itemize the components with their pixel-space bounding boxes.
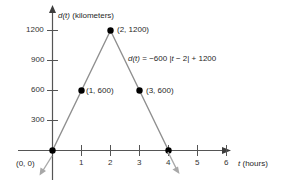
- y-axis-title-arg: (t): [62, 11, 70, 20]
- equation-rest: − 2| + 1200: [174, 54, 217, 63]
- x-tick-label-3: 3: [137, 159, 141, 167]
- x-tick-label-4: 4: [166, 159, 170, 167]
- y-tick-label-600: 600: [31, 86, 44, 94]
- x-tick-label-5: 5: [195, 159, 199, 167]
- absolute-value-function-graph: d(t) (kilometers) t (hours) 1200 900 600…: [0, 0, 286, 189]
- y-tick-label-300: 300: [31, 116, 44, 124]
- data-point-0-0: [49, 147, 55, 153]
- annotation-point-3-600: (3, 600): [146, 87, 174, 95]
- y-tick-label-1200: 1200: [26, 26, 44, 34]
- annotation-point-2-1200: (2, 1200): [117, 26, 149, 34]
- y-tick-label-900: 900: [31, 56, 44, 64]
- x-axis-title-unit: (hours): [242, 159, 267, 168]
- x-axis-title-var: t: [238, 159, 240, 168]
- annotation-point-1-600: (1, 600): [86, 87, 114, 95]
- equation-label: d(t) = −600 |t − 2| + 1200: [128, 55, 216, 63]
- y-axis-arrowhead: [49, 5, 56, 13]
- equation-eq: = −600 |: [140, 54, 171, 63]
- equation-arg: (t): [132, 54, 140, 63]
- x-axis-title: t (hours): [238, 160, 268, 168]
- data-point-2-1200: [107, 27, 113, 33]
- x-tick-label-1: 1: [79, 159, 83, 167]
- data-point-1-600: [78, 87, 84, 93]
- x-tick-label-6: 6: [224, 159, 228, 167]
- data-point-3-600: [136, 87, 142, 93]
- y-axis-title: d(t) (kilometers): [58, 12, 114, 20]
- y-axis-title-unit: (kilometers): [72, 11, 114, 20]
- origin-callout-arrow: [40, 156, 53, 176]
- x-tick-label-2: 2: [108, 159, 112, 167]
- annotation-origin: (0, 0): [16, 160, 35, 168]
